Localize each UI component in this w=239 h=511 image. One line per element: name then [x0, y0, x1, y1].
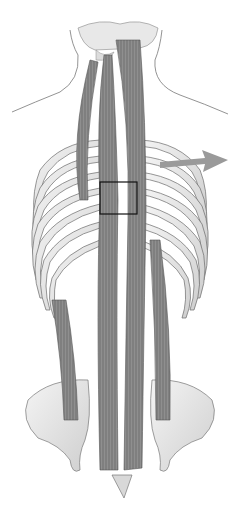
pelvis	[26, 380, 215, 498]
rib-cage	[32, 140, 209, 318]
anatomy-figure: Posterior view of deep back muscles (ere…	[0, 0, 239, 511]
